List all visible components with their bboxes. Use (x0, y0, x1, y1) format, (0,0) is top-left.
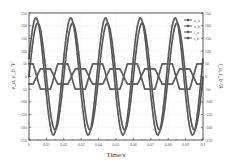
y-tick-label-right: 200 (205, 23, 211, 28)
y-tick-label-right: -50 (205, 87, 210, 92)
y-tick-label: 200 (21, 23, 27, 28)
x-tick-label: 0.04 (95, 142, 102, 147)
legend-label: e_b (194, 24, 200, 29)
legend-label: i_a (194, 30, 199, 35)
x-tick-label: 0.03 (78, 142, 85, 147)
y-tick-label-right: -100 (205, 99, 212, 104)
y-tick-label: 250 (21, 11, 27, 16)
x-axis-label: Time/s (106, 151, 125, 159)
legend: e_ae_bi_ai_b (184, 18, 200, 41)
chart: 00.010.020.030.040.050.060.070.080.090.1… (0, 0, 231, 164)
y-tick-label-right: 50 (205, 61, 209, 66)
legend-label: i_b (194, 36, 199, 41)
y-tick-label: -200 (20, 125, 27, 130)
y-axis-label-left: e_a, e_b /V (10, 61, 16, 89)
x-tick-label: 0.01 (43, 142, 50, 147)
y-tick-label: 150 (21, 36, 27, 41)
x-tick-label: 0 (28, 142, 30, 147)
x-tick-label: 0.1 (201, 142, 206, 147)
y-tick-label-right: -150 (205, 112, 212, 117)
y-tick-label: 50 (23, 61, 27, 66)
y-tick-label-right: -250 (205, 138, 212, 143)
x-tick-label: 0.02 (60, 142, 67, 147)
x-tick-label: 0.06 (130, 142, 137, 147)
y-axis-label-right: i_a, i_b /A (218, 63, 224, 89)
y-tick-label: -250 (20, 138, 27, 143)
y-tick-label-right: 100 (205, 49, 211, 54)
x-tick-label: 0.05 (113, 142, 120, 147)
x-tick-label: 0.07 (147, 142, 154, 147)
x-tick-label: 0.09 (182, 142, 189, 147)
y-tick-label-right: 0 (205, 74, 207, 79)
y-tick-label-right: -200 (205, 125, 212, 130)
y-tick-label-right: 250 (205, 11, 211, 16)
legend-label: e_a (194, 18, 200, 23)
x-tick-label: 0.08 (165, 142, 172, 147)
y-tick-label: -100 (20, 99, 27, 104)
y-tick-label: -50 (22, 87, 27, 92)
y-tick-label-right: 150 (205, 36, 211, 41)
x-axis-ticks: 00.010.020.030.040.050.060.070.080.090.1 (28, 138, 206, 147)
y-tick-label: 0 (25, 74, 27, 79)
y-tick-label: 100 (21, 49, 27, 54)
y-tick-label: -150 (20, 112, 27, 117)
